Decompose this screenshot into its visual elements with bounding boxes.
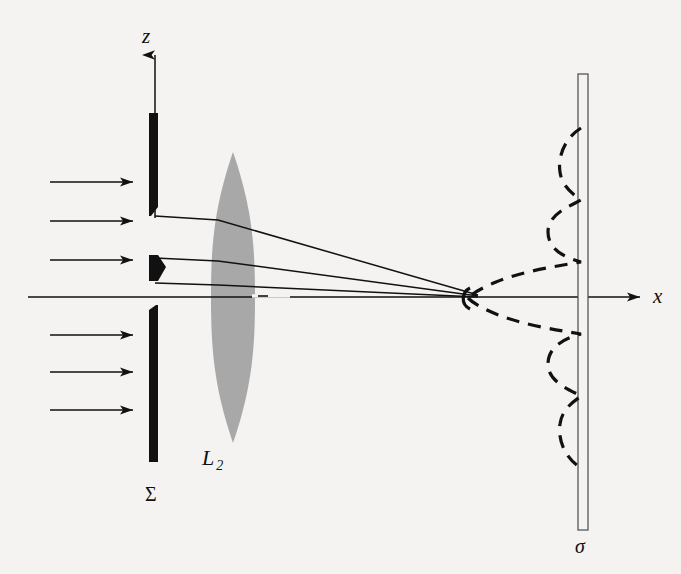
aperture-screen-label: Σ (145, 484, 157, 504)
intensity-curve-upper (468, 128, 581, 298)
lens-l2-label: L2 (202, 447, 223, 473)
optics-diffraction-figure: z x L2 Σ σ (0, 0, 681, 574)
observation-screen-label: σ (575, 536, 585, 556)
figure-canvas (0, 0, 681, 574)
lens-l2-label-subscript: 2 (214, 458, 223, 473)
sigma-lower-bar (149, 305, 158, 462)
converging-ray-middle (155, 258, 478, 296)
converging-ray-group (155, 216, 478, 297)
incoming-ray-group (50, 182, 133, 410)
aperture-screen-sigma (149, 113, 166, 462)
observation-screen-sigma (578, 74, 588, 530)
sigma-upper-bar (149, 113, 158, 216)
intensity-curve-lower (468, 298, 581, 468)
converging-ray-upper (155, 216, 478, 295)
lens-l2-label-base: L (202, 445, 214, 470)
z-axis-label: z (142, 26, 150, 47)
x-axis-label: x (653, 286, 662, 307)
intensity-profile-curve (463, 128, 581, 468)
